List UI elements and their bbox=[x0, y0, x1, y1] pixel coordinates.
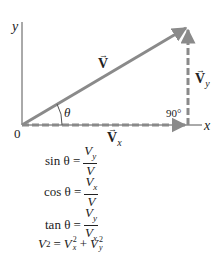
right-angle-label: 90° bbox=[166, 108, 181, 119]
angle-arc bbox=[57, 104, 62, 125]
x-axis-label: x bbox=[204, 119, 210, 133]
cos-equation: cos θ = Vx V bbox=[44, 175, 98, 209]
resultant-vector bbox=[22, 28, 186, 125]
sin-equation: sin θ = Vy V bbox=[45, 144, 97, 178]
y-axis-label: y bbox=[12, 20, 18, 34]
origin-label: 0 bbox=[14, 127, 21, 140]
y-component-label: →Vy bbox=[195, 71, 210, 89]
x-component-label: →Vx bbox=[107, 130, 122, 148]
pythagorean-equation: V2 = V 2x + V 2y bbox=[38, 236, 103, 252]
resultant-label: →V bbox=[98, 56, 108, 72]
angle-theta-label: θ bbox=[64, 106, 70, 119]
